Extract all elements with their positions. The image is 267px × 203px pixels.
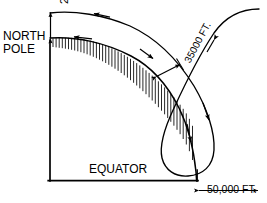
diagram-figure: NORTH POLE EQUATOR 25,000 FT. 35000 FT. … [0,0,267,203]
mid-altitude-dimension-arrow [157,65,181,77]
north-pole-label: NORTH POLE [3,30,45,56]
outer-curve-arrow-lower-descending [203,103,209,120]
equator-label: EQUATOR [89,163,147,176]
bottom-distance-label: 50,000 FT. [207,184,257,195]
pole-altitude-label: 25,000 FT. [59,0,71,4]
outer-trajectory-curve [50,9,259,176]
trajectory-curves-group [50,9,259,181]
outer-curve-arrow-descending [140,49,153,59]
